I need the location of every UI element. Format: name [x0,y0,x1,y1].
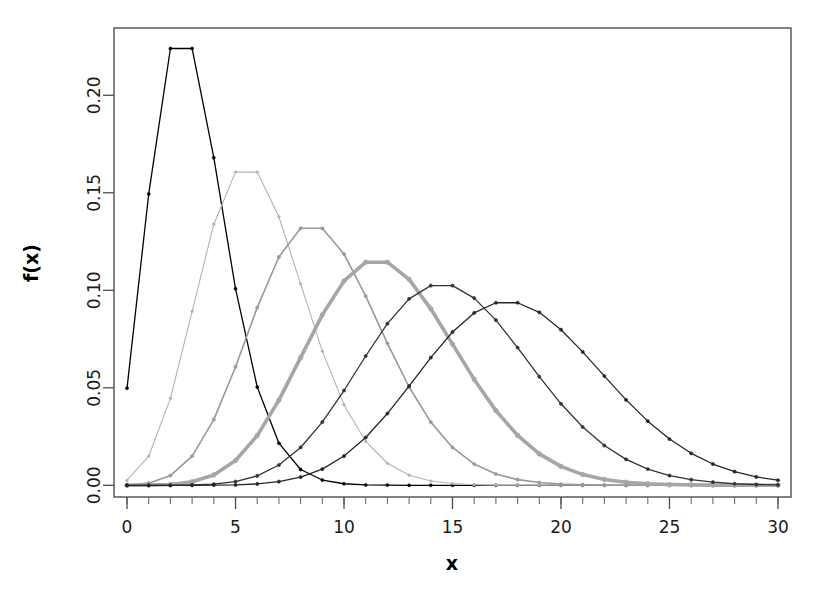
series-point [385,260,390,265]
series-point [234,171,237,174]
series-point [147,455,150,458]
series-0 [126,47,780,487]
series-point [603,374,606,377]
series-line [127,262,778,485]
series-point [472,377,477,382]
series-point [364,436,367,439]
series-point [733,470,736,473]
series-point [277,442,280,445]
series-point [278,215,281,218]
series-point [321,227,324,230]
y-axis-tick-label: 0.15 [84,174,104,212]
series-point [320,313,325,318]
series-point [407,277,412,282]
series-point [451,330,454,333]
series-point [645,481,650,486]
series-point [408,384,411,387]
x-axis-tick-label: 5 [230,517,241,537]
series-point [429,484,432,487]
series-point [386,412,389,415]
series-point [256,386,259,389]
series-point [169,47,172,50]
data-series-group [125,47,781,488]
series-point [516,346,519,349]
series-point [755,475,758,478]
series-point [342,389,345,392]
x-axis-tick-label: 20 [550,517,572,537]
series-point [602,477,607,482]
series-point [299,446,302,449]
series-point [537,452,542,457]
series-point [646,468,649,471]
series-point [321,421,324,424]
series-point [277,398,282,403]
series-point [516,478,519,481]
series-point [689,483,694,488]
series-point [234,483,237,486]
y-axis-title: f(x) [20,244,42,282]
poisson-pmf-figure: 0510152025300.000.050.100.150.20 x f(x) [0,0,833,594]
series-point [580,472,585,477]
series-point [538,375,541,378]
series-point [212,484,215,487]
series-point [473,311,476,314]
series-point [191,310,194,313]
series-point [494,408,499,413]
x-axis-title: x [446,552,458,574]
series-point [256,482,259,485]
series-point [690,478,693,481]
series-point [451,482,454,485]
series-point [711,462,714,465]
x-axis-tick-label: 0 [122,517,133,537]
series-point [191,454,194,457]
series-point [429,284,432,287]
series-point [277,255,280,258]
series-point [342,454,345,457]
series-point [256,474,259,477]
series-point [429,421,432,424]
series-point [451,446,454,449]
series-point [321,479,324,482]
series-point [212,156,215,159]
series-point [342,279,347,284]
series-point [495,484,498,487]
series-point [733,482,736,485]
series-point [581,483,584,486]
series-point [299,476,302,479]
series-point [169,484,172,487]
series-point [363,260,368,265]
series-point [711,481,714,484]
series-point [430,480,433,483]
series-point [299,283,302,286]
series-point [234,365,237,368]
series-point [755,483,758,486]
x-axis-tick-label: 10 [333,517,355,537]
series-point [125,484,128,487]
series-point [494,301,497,304]
series-point [494,319,497,322]
series-point [364,354,367,357]
series-point [213,223,216,226]
series-point [668,474,671,477]
series-point [233,458,238,463]
series-point [169,474,172,477]
series-point [386,462,389,465]
series-point [690,452,693,455]
series-point [298,355,303,360]
series-line [127,286,778,486]
series-2 [125,227,779,487]
series-point [277,463,280,466]
series-point [256,171,259,174]
axis-ticks-group: 0510152025300.000.050.100.150.20 [84,76,789,537]
series-point [624,398,627,401]
series-point [299,468,302,471]
series-point [126,387,129,390]
series-point [646,420,649,423]
series-point [256,306,259,309]
series-point [473,462,476,465]
series-point [776,479,779,482]
series-4 [125,284,779,487]
series-point [408,474,411,477]
series-point [342,252,345,255]
series-point [364,483,367,486]
